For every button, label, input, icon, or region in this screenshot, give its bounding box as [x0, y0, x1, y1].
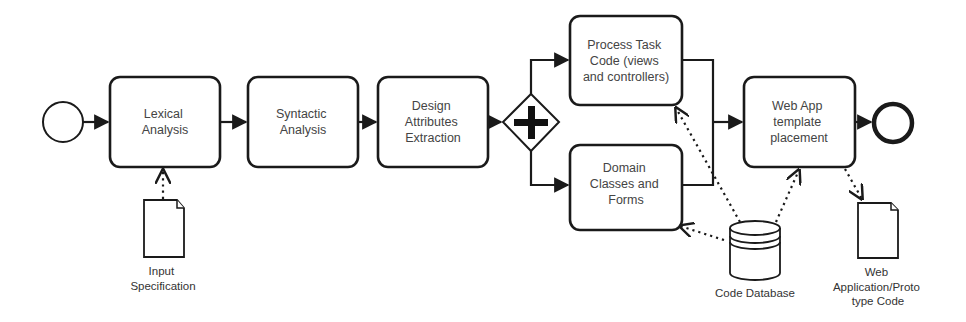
- task-domain[interactable]: Domain Classes and Forms: [570, 145, 682, 230]
- document-icon: [858, 203, 898, 258]
- flow-gateway-process: [531, 60, 568, 94]
- database-icon: [730, 221, 780, 280]
- artifact-label: Web Application/Proto type Code: [833, 266, 923, 307]
- bpmn-diagram: Lexical Analysis Syntactic Analysis Desi…: [0, 0, 966, 322]
- task-process[interactable]: Process Task Code (views and controllers…: [570, 16, 682, 105]
- code-database-store[interactable]: Code Database: [715, 221, 795, 299]
- assoc-db-domain: [680, 226, 724, 240]
- assoc-db-webapp: [776, 170, 799, 222]
- task-design[interactable]: Design Attributes Extraction: [378, 77, 488, 167]
- task-label: Web App template placement: [770, 99, 828, 145]
- task-label: Design Attributes Extraction: [405, 99, 461, 145]
- assoc-webapp-output: [845, 169, 862, 199]
- artifact-label: Code Database: [715, 287, 795, 299]
- parallel-gateway[interactable]: [503, 94, 559, 151]
- assoc-db-process: [676, 108, 740, 222]
- start-event[interactable]: [43, 102, 83, 142]
- artifact-label: Input Specification: [130, 265, 195, 292]
- task-webapp[interactable]: Web App template placement: [744, 77, 855, 167]
- input-specification-artifact[interactable]: Input Specification: [130, 200, 195, 292]
- task-syntactic[interactable]: Syntactic Analysis: [248, 77, 358, 167]
- end-event[interactable]: [874, 104, 912, 142]
- task-lexical[interactable]: Lexical Analysis: [110, 77, 220, 167]
- flow-gateway-domain: [531, 151, 568, 185]
- task-label: Process Task Code (views and controllers…: [583, 38, 669, 84]
- web-application-artifact[interactable]: Web Application/Proto type Code: [833, 203, 923, 307]
